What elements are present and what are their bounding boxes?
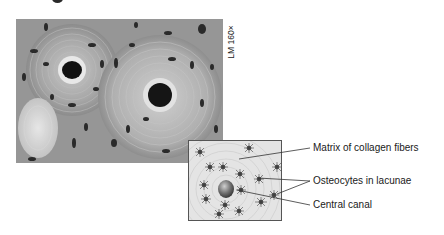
magnification-label: LM 160× — [224, 22, 238, 62]
label-central-canal: Central canal — [313, 199, 372, 211]
cutoff-heading-glyph — [52, 0, 63, 3]
label-osteocytes-in-lacunae: Osteocytes in lacunae — [313, 175, 411, 187]
magnification-text: LM 160× — [226, 25, 236, 58]
label-matrix-of-collagen-fibers: Matrix of collagen fibers — [313, 142, 419, 154]
osteon-inset-diagram — [188, 140, 282, 221]
